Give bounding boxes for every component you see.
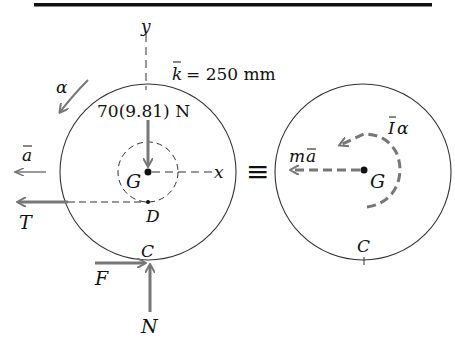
kinetic-contact-label: C [357, 236, 370, 256]
y-axis-label: y [140, 16, 151, 36]
top-rule [34, 3, 432, 7]
friction-label: F [94, 267, 109, 289]
alpha-label: α [56, 77, 68, 97]
diagram-canvas: y k = 250 mm α 70(9.81) N G x D a T C F … [0, 0, 455, 349]
ma-label-m: m [289, 146, 305, 166]
i-alpha-label-i: I [387, 118, 395, 138]
k-bar-value: = 250 mm [186, 64, 276, 84]
free-body-diagram: y k = 250 mm α 70(9.81) N G x D a T C F … [16, 16, 276, 337]
point-d-label: D [145, 206, 160, 226]
center-g-label: G [126, 170, 141, 192]
i-alpha-label-alpha: α [397, 118, 409, 138]
equivalence-symbol: ≡ [246, 155, 269, 188]
center-g-dot [145, 169, 152, 176]
accel-label: a [22, 145, 32, 165]
x-axis-label: x [214, 162, 224, 182]
contact-c-label: C [141, 241, 154, 261]
kinetic-center-dot [361, 167, 368, 174]
kinetic-center-label: G [370, 170, 385, 192]
k-bar-symbol: k [172, 64, 182, 84]
tension-label: T [19, 211, 33, 233]
kinetic-diagram: m a I α G C [275, 84, 451, 265]
weight-label: 70(9.81) N [97, 101, 190, 121]
normal-label: N [140, 315, 159, 337]
point-d-dot [146, 200, 150, 204]
